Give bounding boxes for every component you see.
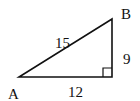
vertical-side-label: 9 — [123, 51, 131, 67]
hypotenuse-label: 15 — [55, 35, 70, 51]
right-triangle-diagram: B A 15 9 12 — [0, 0, 140, 101]
vertex-label-b: B — [121, 6, 131, 22]
vertex-label-a: A — [8, 86, 19, 101]
right-angle-marker — [103, 68, 112, 77]
base-label: 12 — [68, 84, 83, 100]
